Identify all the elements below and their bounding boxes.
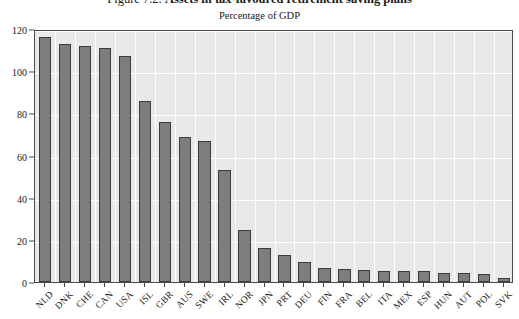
x-tick-label-nor: NOR xyxy=(233,289,255,311)
x-tick-label-swe: SWE xyxy=(193,289,215,311)
x-tick-label-pol: POL xyxy=(474,289,494,309)
bar-prt xyxy=(278,255,290,282)
x-tick-mark xyxy=(264,283,265,287)
bar-pol xyxy=(478,274,490,282)
bar-nld xyxy=(39,37,51,282)
y-tick-mark xyxy=(29,72,34,73)
bar-svk xyxy=(498,278,510,282)
x-tick-label-aus: AUS xyxy=(174,289,195,310)
x-tick-mark xyxy=(443,283,444,287)
x-tick-label-dnk: DNK xyxy=(53,289,75,311)
x-tick-label-jpn: JPN xyxy=(256,289,275,308)
bar-esp xyxy=(418,271,430,282)
y-tick-mark xyxy=(29,198,34,199)
x-tick-mark xyxy=(423,283,424,287)
x-tick-mark xyxy=(44,283,45,287)
x-tick-mark xyxy=(343,283,344,287)
x-tick-label-aut: AUT xyxy=(453,289,474,310)
bar-jpn xyxy=(258,248,270,282)
bar-can xyxy=(99,48,111,282)
x-tick-label-hun: HUN xyxy=(432,289,454,311)
x-tick-label-nld: NLD xyxy=(34,289,55,310)
bar-fra xyxy=(338,269,350,282)
x-tick-mark xyxy=(184,283,185,287)
bar-irl xyxy=(218,170,230,282)
x-tick-mark xyxy=(84,283,85,287)
bar-nor xyxy=(238,230,250,282)
bar-swe xyxy=(198,141,210,282)
plot-area xyxy=(34,30,513,283)
bar-fin xyxy=(318,268,330,282)
y-tick-label: 20 xyxy=(17,235,27,246)
figure-chart: Figure 7.2. Assets in tax-favoured retir… xyxy=(0,0,519,319)
x-tick-mark xyxy=(463,283,464,287)
chart-subtitle: Percentage of GDP xyxy=(0,10,519,21)
x-tick-label-gbr: GBR xyxy=(153,289,174,310)
y-tick-label: 80 xyxy=(17,109,27,120)
y-tick-mark xyxy=(29,114,34,115)
x-tick-label-che: CHE xyxy=(74,289,95,310)
bar-mex xyxy=(398,271,410,282)
y-tick-label: 100 xyxy=(12,67,27,78)
chart-title: Figure 7.2. Assets in tax-favoured retir… xyxy=(0,0,519,7)
bar-usa xyxy=(119,56,131,282)
x-tick-label-irl: IRL xyxy=(216,289,234,307)
bar-bel xyxy=(358,270,370,282)
figure-title-text: Assets in tax-favoured retirement saving… xyxy=(165,0,412,6)
bar-dnk xyxy=(59,44,71,282)
x-tick-label-usa: USA xyxy=(114,289,135,310)
x-tick-label-svk: SVK xyxy=(493,289,514,310)
x-tick-mark xyxy=(224,283,225,287)
x-tick-mark xyxy=(104,283,105,287)
x-tick-mark xyxy=(503,283,504,287)
x-tick-mark xyxy=(244,283,245,287)
y-tick-label: 0 xyxy=(22,278,27,289)
y-tick-label: 40 xyxy=(17,193,27,204)
y-tick-mark xyxy=(29,156,34,157)
x-tick-label-fra: FRA xyxy=(334,289,355,310)
figure-number-label: Figure 7.2. xyxy=(107,0,162,6)
x-tick-mark xyxy=(64,283,65,287)
x-tick-mark xyxy=(483,283,484,287)
x-tick-label-bel: BEL xyxy=(354,289,374,309)
x-tick-label-isl: ISL xyxy=(137,289,155,307)
x-tick-mark xyxy=(403,283,404,287)
y-tick-mark xyxy=(29,30,34,31)
x-axis: NLDDNKCHECANUSAISLGBRAUSSWEIRLNORJPNPRTD… xyxy=(34,283,513,319)
x-tick-label-esp: ESP xyxy=(415,289,434,308)
bar-ita xyxy=(378,271,390,282)
x-tick-label-can: CAN xyxy=(93,289,115,311)
bar-gbr xyxy=(159,122,171,282)
bar-deu xyxy=(298,262,310,282)
x-tick-label-fin: FIN xyxy=(316,289,334,307)
bar-aut xyxy=(458,273,470,282)
x-tick-mark xyxy=(283,283,284,287)
x-tick-mark xyxy=(363,283,364,287)
x-tick-mark xyxy=(144,283,145,287)
y-axis: 020406080100120 xyxy=(0,30,34,283)
y-tick-label: 60 xyxy=(17,151,27,162)
x-tick-mark xyxy=(124,283,125,287)
x-tick-label-mex: MEX xyxy=(392,289,414,311)
bar-isl xyxy=(139,101,151,282)
bar-aus xyxy=(179,137,191,282)
x-tick-mark xyxy=(204,283,205,287)
y-tick-mark xyxy=(29,240,34,241)
bar-series xyxy=(35,31,512,282)
x-tick-label-deu: DEU xyxy=(293,289,314,310)
x-tick-label-prt: PRT xyxy=(275,289,294,308)
bar-hun xyxy=(438,273,450,282)
x-tick-mark xyxy=(164,283,165,287)
x-tick-mark xyxy=(303,283,304,287)
x-tick-mark xyxy=(383,283,384,287)
bar-che xyxy=(79,46,91,282)
x-tick-mark xyxy=(323,283,324,287)
y-tick-label: 120 xyxy=(12,25,27,36)
